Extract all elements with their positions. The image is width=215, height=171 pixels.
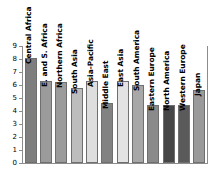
bar[interactable]	[147, 105, 159, 163]
y-axis: 0123456789	[0, 40, 22, 170]
bar[interactable]	[71, 88, 83, 163]
y-axis-tick: 4	[13, 107, 22, 116]
category-label: South America	[132, 30, 141, 91]
category-label: Western Europe	[178, 44, 187, 111]
category-label: Central Africa	[24, 6, 33, 63]
y-axis-tick: 0	[13, 159, 22, 168]
bar[interactable]	[101, 103, 113, 163]
y-axis-tick: 7	[13, 68, 22, 77]
bar[interactable]	[193, 90, 205, 163]
y-axis-tick: 9	[13, 42, 22, 51]
bar[interactable]	[55, 82, 67, 163]
bar[interactable]	[178, 105, 190, 163]
bar[interactable]	[86, 81, 98, 163]
y-axis-tick: 5	[13, 94, 22, 103]
category-label: Middle East	[101, 61, 110, 110]
y-axis-tick: 8	[13, 55, 22, 64]
category-label: E. and S. Africa	[40, 23, 49, 87]
category-label: East Asia	[116, 49, 125, 87]
category-label: North America	[162, 51, 171, 111]
bar[interactable]	[25, 58, 37, 163]
y-axis-tick: 1	[13, 146, 22, 155]
bar-slot	[193, 46, 205, 163]
bar[interactable]	[40, 81, 52, 163]
category-label: South Asia	[70, 49, 79, 94]
category-label: Asia-Pacific	[86, 39, 95, 87]
bar[interactable]	[163, 105, 175, 163]
y-axis-tick: 3	[13, 120, 22, 129]
category-label: Japan	[193, 73, 202, 96]
category-label: Northern Africa	[55, 23, 64, 88]
bar-chart-figure: 0123456789 Central AfricaE. and S. Afric…	[0, 0, 215, 171]
y-axis-tick: 6	[13, 81, 22, 90]
category-label: Eastern Europe	[147, 47, 156, 111]
bar[interactable]	[117, 81, 129, 163]
bar[interactable]	[132, 85, 144, 163]
y-axis-tick: 2	[13, 133, 22, 142]
